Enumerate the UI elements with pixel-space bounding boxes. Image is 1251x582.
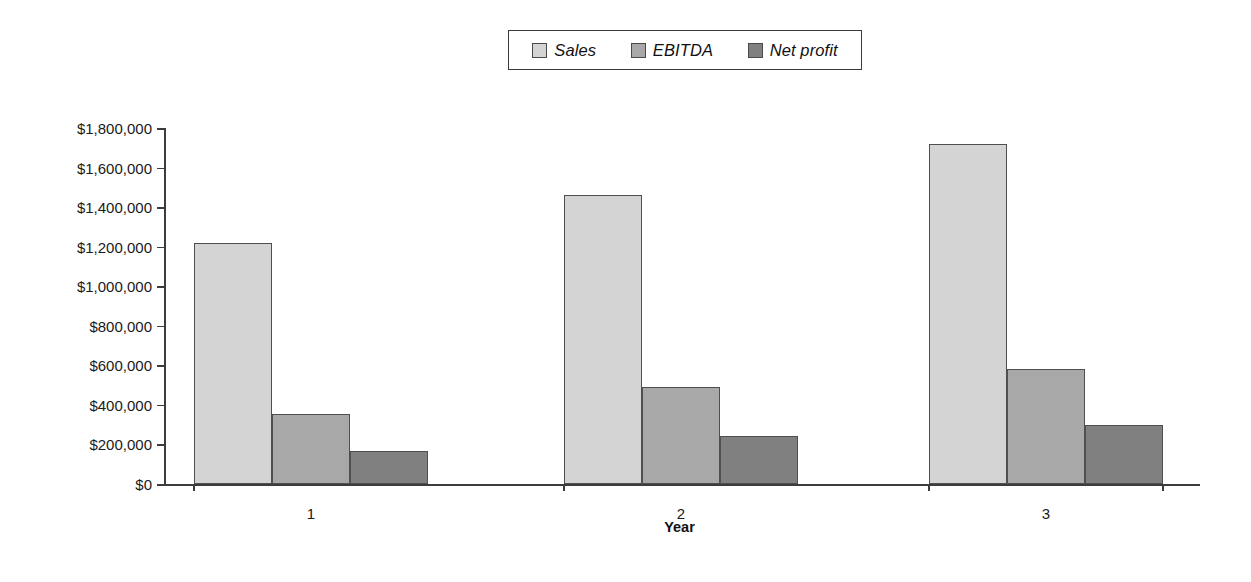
y-tick-label: $1,800,000 (77, 120, 152, 137)
y-tick-mark (157, 286, 164, 288)
bar-ebitda-year-1 (272, 414, 350, 484)
bar-ebitda-year-2 (642, 387, 720, 484)
y-tick-label: $1,600,000 (77, 159, 152, 176)
x-axis-title-text: Year (664, 519, 695, 535)
x-tick-mark (193, 484, 195, 491)
bar-net-profit-year-2 (720, 436, 798, 484)
legend-label-ebitda: EBITDA (653, 41, 713, 60)
y-tick-label: $200,000 (89, 436, 152, 453)
plot-area: $0$200,000$400,000$600,000$800,000$1,000… (164, 128, 1200, 484)
bar-chart: Sales EBITDA Net profit $0$200,000$400,0… (0, 0, 1251, 582)
y-tick-label: $1,400,000 (77, 199, 152, 216)
y-tick-mark (157, 326, 164, 328)
y-tick-label: $400,000 (89, 396, 152, 413)
bar-sales-year-1 (194, 243, 272, 484)
y-tick-mark (157, 444, 164, 446)
y-tick-label: $1,200,000 (77, 238, 152, 255)
x-tick-mark (563, 484, 565, 491)
legend-entry-net-profit: Net profit (748, 41, 838, 60)
y-tick-mark (157, 247, 164, 249)
x-tick-mark (928, 484, 930, 491)
y-axis-ticks: $0$200,000$400,000$600,000$800,000$1,000… (0, 128, 164, 484)
legend-swatch-ebitda-icon (631, 43, 646, 58)
y-tick-label: $800,000 (89, 317, 152, 334)
y-axis-line (164, 128, 166, 484)
y-tick-mark (157, 168, 164, 170)
y-tick-label: $0 (135, 476, 152, 493)
x-axis-line (164, 484, 1200, 486)
bar-net-profit-year-1 (350, 451, 428, 484)
legend-label-net-profit: Net profit (770, 41, 838, 60)
legend-swatch-net-profit-icon (748, 43, 763, 58)
bar-ebitda-year-3 (1007, 369, 1085, 484)
x-tick-mark (1162, 484, 1164, 491)
y-tick-label: $1,000,000 (77, 278, 152, 295)
legend-entry-sales: Sales (532, 41, 596, 60)
y-tick-mark (157, 484, 164, 486)
chart-legend: Sales EBITDA Net profit (508, 30, 862, 70)
y-tick-mark (157, 128, 164, 130)
bar-net-profit-year-3 (1085, 425, 1163, 484)
bar-sales-year-3 (929, 144, 1007, 484)
y-tick-mark (157, 207, 164, 209)
y-tick-label: $600,000 (89, 357, 152, 374)
legend-swatch-sales-icon (532, 43, 547, 58)
legend-entry-ebitda: EBITDA (631, 41, 713, 60)
y-tick-mark (157, 405, 164, 407)
x-axis-title: Year (0, 519, 1251, 535)
y-tick-mark (157, 365, 164, 367)
bar-sales-year-2 (564, 195, 642, 484)
legend-label-sales: Sales (554, 41, 596, 60)
